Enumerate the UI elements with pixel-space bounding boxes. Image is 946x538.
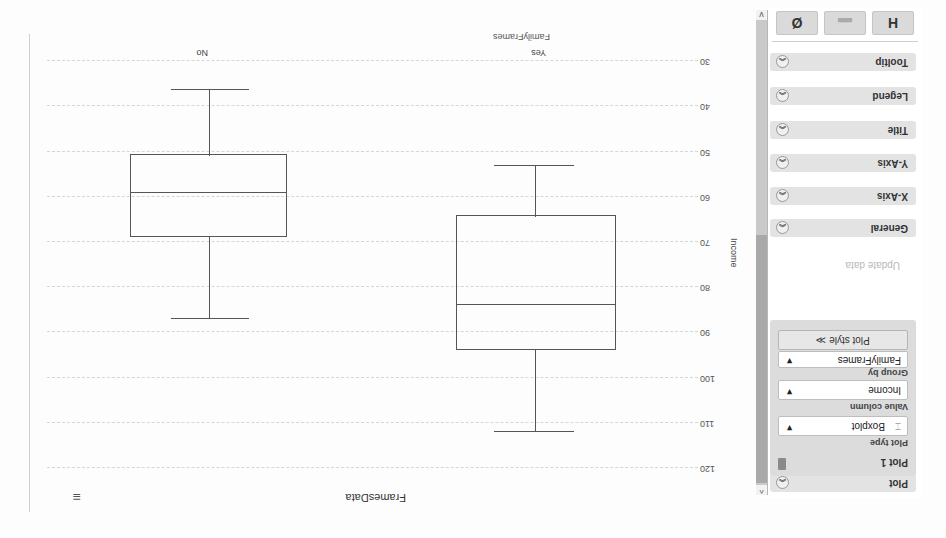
dropdown-caret-icon: ▼ bbox=[785, 387, 794, 397]
section-label: Tooltip bbox=[875, 57, 908, 68]
save-button[interactable]: H bbox=[872, 11, 914, 35]
y-tick-label: 80 bbox=[700, 283, 720, 293]
trash-icon[interactable] bbox=[778, 458, 786, 470]
section-x-axis[interactable]: X-Axis ︽ bbox=[770, 187, 916, 205]
sidebar-scrollbar[interactable]: ^ v bbox=[756, 10, 768, 495]
y-tick-label: 40 bbox=[700, 102, 720, 112]
chart-divider bbox=[29, 34, 30, 512]
y-tick-label: 120 bbox=[700, 464, 720, 474]
x-tick-label-yes: Yes bbox=[531, 48, 546, 58]
gridline bbox=[47, 105, 698, 106]
section-title[interactable]: Title ︽ bbox=[770, 121, 916, 139]
section-general[interactable]: General ︽ bbox=[770, 219, 916, 237]
chevron-up-icon[interactable]: ︽ bbox=[776, 156, 789, 169]
y-tick-label: 70 bbox=[700, 238, 720, 248]
dropdown-caret-icon: ▼ bbox=[785, 423, 794, 433]
y-axis-label: Income bbox=[729, 238, 739, 268]
section-plot[interactable]: Plot ︽ bbox=[770, 474, 916, 492]
update-data-link[interactable]: Update data bbox=[846, 260, 901, 271]
section-label: Plot bbox=[889, 478, 908, 489]
group-by-value: FamilyFrames bbox=[838, 355, 901, 366]
app-window: FramesData ≡ 30 40 50 60 70 80 90 100 11… bbox=[0, 0, 946, 538]
refresh-button[interactable]: Ø bbox=[776, 11, 818, 35]
plot-panel-title: Plot 1 bbox=[881, 457, 908, 468]
section-label: X-Axis bbox=[877, 191, 908, 202]
boxplot-icon: ⌶ bbox=[895, 420, 901, 432]
value-column-select[interactable]: Income ▼ bbox=[778, 380, 908, 400]
value-column-value: Income bbox=[868, 385, 901, 396]
chart-title: FramesData bbox=[345, 492, 406, 504]
boxplot-no-upper-whisker bbox=[209, 237, 210, 319]
value-column-label: Value column bbox=[850, 402, 908, 412]
save-icon: H bbox=[888, 15, 898, 31]
chevron-up-icon[interactable]: ︽ bbox=[776, 89, 789, 102]
sidebar-toolbar: H ▬ Ø bbox=[772, 9, 918, 42]
chevron-up-icon[interactable]: ︽ bbox=[776, 55, 789, 68]
boxplot-yes-box[interactable] bbox=[456, 215, 616, 350]
boxplot-no-max-cap bbox=[171, 318, 249, 319]
group-by-label: Group by bbox=[868, 368, 908, 378]
section-label: Title bbox=[888, 125, 908, 136]
gridline bbox=[47, 467, 698, 468]
y-tick-label: 110 bbox=[700, 419, 720, 429]
y-tick-label: 100 bbox=[700, 374, 720, 384]
plot-style-button[interactable]: Plot style ≫ bbox=[778, 330, 908, 350]
chevron-up-icon[interactable]: ︽ bbox=[776, 476, 789, 489]
gridline bbox=[47, 422, 698, 423]
export-image-button[interactable]: ▬ bbox=[824, 11, 866, 35]
y-tick-label: 50 bbox=[700, 148, 720, 158]
section-y-axis[interactable]: Y-Axis ︽ bbox=[770, 154, 916, 172]
plot-type-select[interactable]: ⌶ Boxplot ▼ bbox=[778, 416, 908, 436]
dropdown-caret-icon: ▼ bbox=[785, 356, 794, 366]
plot-type-value: Boxplot bbox=[852, 421, 885, 432]
scrollbar-thumb[interactable] bbox=[756, 235, 767, 483]
y-tick-label: 30 bbox=[700, 57, 720, 67]
x-tick-label-no: No bbox=[196, 48, 208, 58]
gridline bbox=[47, 151, 698, 152]
plot-type-label: Plot type bbox=[870, 438, 908, 448]
chevron-up-icon[interactable]: ︽ bbox=[776, 189, 789, 202]
gridline bbox=[47, 377, 698, 378]
section-label: General bbox=[871, 223, 908, 234]
section-label: Y-Axis bbox=[877, 158, 908, 169]
section-tooltip[interactable]: Tooltip ︽ bbox=[770, 53, 916, 71]
boxplot-yes-upper-whisker bbox=[535, 350, 536, 432]
boxplot-no-median bbox=[131, 192, 287, 193]
section-legend[interactable]: Legend ︽ bbox=[770, 87, 916, 105]
scroll-down-arrow-icon[interactable]: v bbox=[756, 10, 767, 20]
chart-menu-icon[interactable]: ≡ bbox=[73, 489, 81, 505]
boxplot-yes-lower-whisker bbox=[535, 166, 536, 217]
y-tick-label: 60 bbox=[700, 193, 720, 203]
boxplot-no-lower-whisker bbox=[209, 90, 210, 156]
chevron-up-icon[interactable]: ︽ bbox=[776, 123, 789, 136]
section-label: Legend bbox=[872, 91, 908, 102]
group-by-select[interactable]: FamilyFrames ▼ bbox=[778, 351, 908, 368]
refresh-icon: Ø bbox=[792, 15, 803, 31]
x-axis-label: FamilyFrames bbox=[493, 32, 550, 42]
scroll-up-arrow-icon[interactable]: ^ bbox=[756, 485, 767, 495]
boxplot-yes-median bbox=[457, 304, 616, 305]
boxplot-yes-min-cap bbox=[494, 165, 574, 166]
boxplot-no-box[interactable] bbox=[130, 154, 287, 237]
chevron-up-icon[interactable]: ︽ bbox=[776, 221, 789, 234]
boxplot-no-min-cap bbox=[171, 89, 249, 90]
plot-1-panel: Plot 1 Plot type ⌶ Boxplot ▼ Value colum… bbox=[770, 320, 916, 476]
boxplot-yes-max-cap bbox=[494, 431, 574, 432]
gridline bbox=[47, 60, 698, 61]
y-tick-label: 90 bbox=[700, 328, 720, 338]
image-icon: ▬ bbox=[838, 15, 852, 31]
